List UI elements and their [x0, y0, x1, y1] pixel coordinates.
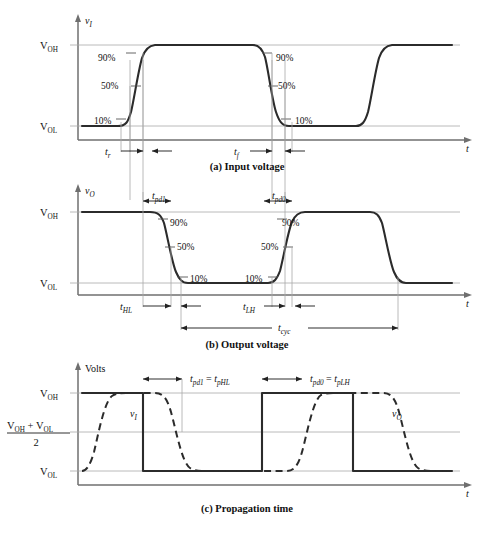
panel-a: vI t VOH VOL 90% 50% 10% 90% 50% 10%: [40, 14, 472, 200]
panel-c: Volts t VOH VOL VOH + VOL 2: [7, 362, 472, 515]
fall-edge-marker-a: [285, 149, 305, 154]
tpd0-marker-b: tpd0: [264, 190, 292, 204]
x-axis-label-a: t: [466, 143, 469, 154]
percent-10-fall-b: 10%: [190, 274, 208, 284]
caption-b: (b) Output voltage: [206, 339, 289, 351]
percent-10-fall-a: 10%: [295, 116, 313, 126]
thl-marker-b: tHL: [120, 301, 171, 315]
y-axis-label-b: vO: [85, 185, 95, 199]
svg-text:tr: tr: [105, 146, 111, 160]
x-axis-label-b: t: [466, 298, 469, 309]
svg-text:tpd0 = tpLH: tpd0 = tpLH: [310, 373, 351, 387]
input-waveform-a: [82, 45, 452, 126]
rise-edge-marker-a: [152, 149, 172, 154]
percent-50-rise-b: 50%: [261, 242, 279, 252]
panel-b: vO t VOH VOL 90% 50% 10% 90% 50% 10%: [40, 184, 472, 351]
percent-50-fall-a: 50%: [278, 81, 296, 91]
output-curve-label-c: vO: [392, 408, 402, 422]
tlh-marker-b: tLH: [243, 301, 285, 315]
threshold-ticks-a: [116, 53, 291, 119]
percent-90-fall-a: 90%: [276, 53, 294, 63]
fall-edge-marker-b: [181, 304, 201, 309]
tpd0-equation-marker-c: tpd0 = tpLH: [262, 373, 351, 387]
svg-text:tLH: tLH: [243, 301, 256, 315]
svg-text:tpd1: tpd1: [152, 190, 166, 204]
vol-label-c: VOL: [40, 466, 57, 480]
svg-text:VOH + VOL: VOH + VOL: [7, 420, 53, 434]
alignment-guides-a: [130, 60, 285, 200]
caption-c: (c) Propagation time: [201, 503, 293, 515]
svg-text:tHL: tHL: [120, 301, 132, 315]
tpd1-marker-b: tpd1: [143, 190, 171, 204]
tpd1-equation-marker-c: tpd1 = tpHL: [143, 373, 230, 432]
tcyc-marker-b: tcyc: [181, 320, 398, 336]
timing-diagram-figure: vI t VOH VOL 90% 50% 10% 90% 50% 10%: [0, 0, 494, 533]
rise-time-marker-a: tr: [105, 146, 143, 160]
x-axis-label-c: t: [466, 488, 469, 499]
percent-10-rise-b: 10%: [245, 274, 263, 284]
svg-text:tpd1 = tpHL: tpd1 = tpHL: [190, 373, 230, 387]
vol-label-a: VOL: [40, 121, 57, 135]
y-axis-label-a: vI: [85, 15, 92, 29]
percent-90-rise-a: 90%: [98, 53, 116, 63]
voh-label-a: VOH: [40, 40, 58, 54]
svg-text:tf: tf: [234, 146, 240, 160]
y-axis-label-c: Volts: [85, 363, 105, 374]
svg-text:2: 2: [33, 437, 38, 448]
input-curve-label-c: vI: [130, 408, 137, 422]
percent-50-rise-a: 50%: [101, 81, 119, 91]
voh-label-b: VOH: [40, 207, 58, 221]
y-axis-arrow-b: [75, 184, 81, 192]
fall-time-marker-a: tf: [234, 146, 272, 160]
percent-90-fall-b: 90%: [170, 218, 188, 228]
caption-a: (a) Input voltage: [210, 161, 285, 173]
y-axis-arrow-c: [75, 362, 81, 370]
svg-text:tpd0: tpd0: [272, 190, 286, 204]
y-axis-arrow-a: [75, 14, 81, 22]
rise-edge-marker-b: [295, 304, 315, 309]
vol-label-b: VOL: [40, 278, 57, 292]
midpoint-fraction-label-c: VOH + VOL 2: [7, 420, 70, 448]
voh-label-c: VOH: [40, 388, 58, 402]
percent-10-rise-a: 10%: [94, 116, 112, 126]
percent-50-fall-b: 50%: [177, 242, 195, 252]
